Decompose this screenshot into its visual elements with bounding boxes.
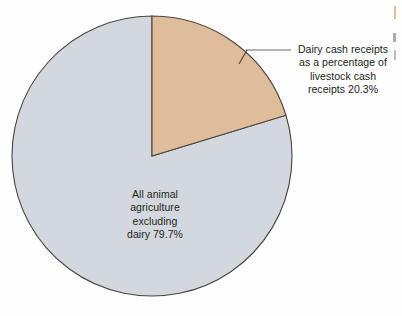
callout-label: Dairy cash receipts as a percentage of l…	[289, 43, 397, 97]
inner-label-line-1: All animal	[96, 188, 214, 201]
callout-label-line-1: Dairy cash receipts	[289, 43, 397, 56]
inner-label-line-4: dairy 79.7%	[96, 228, 214, 241]
callout-label-line-3: livestock cash	[289, 70, 397, 83]
inner-label-line-3: excluding	[96, 215, 214, 228]
callout-label-line-4: receipts 20.3%	[289, 83, 397, 96]
inner-slice-label: All animal agriculture excluding dairy 7…	[96, 188, 214, 242]
inner-label-line-2: agriculture	[96, 201, 214, 214]
pie-chart-figure: Dairy cash receipts as a percentage of l…	[0, 0, 402, 316]
callout-label-line-2: as a percentage of	[289, 56, 397, 69]
